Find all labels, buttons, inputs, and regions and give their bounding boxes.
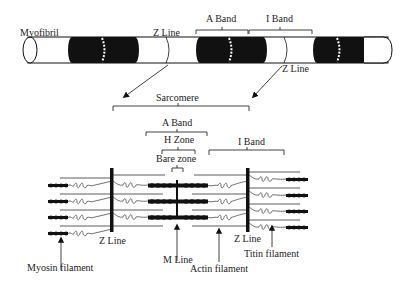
myofibril-label: Myofibril (20, 28, 59, 38)
tube-a-band-label: A Band (206, 14, 236, 24)
sarcomere-bracket (113, 106, 249, 111)
tube-z-line-left-label: Z Line (153, 28, 180, 38)
bottom-z-line-right-label: Z Line (234, 234, 261, 244)
myosin-filaments-left (48, 184, 68, 236)
titin-filament-label: Titin filament (244, 249, 299, 259)
actin-filament-label: Actin filament (190, 264, 248, 274)
m-line-label: M Line (163, 255, 193, 265)
bare-zone-label: Bare zone (156, 154, 196, 164)
z-line-right (246, 168, 250, 232)
sarcomere-diagram: Myofibril Z Line A Band I Band Z Line Sa… (0, 0, 412, 294)
myofibril-tube (23, 37, 392, 63)
bottom-z-line-left-label: Z Line (99, 236, 126, 246)
tube-z-line-right-label: Z Line (282, 64, 309, 74)
i-band-bracket (209, 150, 284, 155)
sarcomere-a-band-label: A Band (162, 118, 192, 128)
sarcomere-label: Sarcomere (156, 93, 199, 103)
arrow-right-z-to-sarcomere (253, 66, 282, 97)
sarcomere-i-band-label: I Band (238, 137, 265, 147)
tube-i-band-label: I Band (266, 14, 293, 24)
diagram-canvas (0, 0, 412, 294)
z-line-left (110, 168, 114, 232)
myosin-filaments-right (286, 178, 308, 230)
tube-a-band-bracket (196, 27, 248, 34)
tube-i-band-bracket (249, 27, 312, 34)
h-zone-label: H Zone (164, 135, 194, 145)
bare-zone-bracket (172, 168, 183, 172)
myosin-filament-label: Myosin filament (27, 263, 93, 273)
